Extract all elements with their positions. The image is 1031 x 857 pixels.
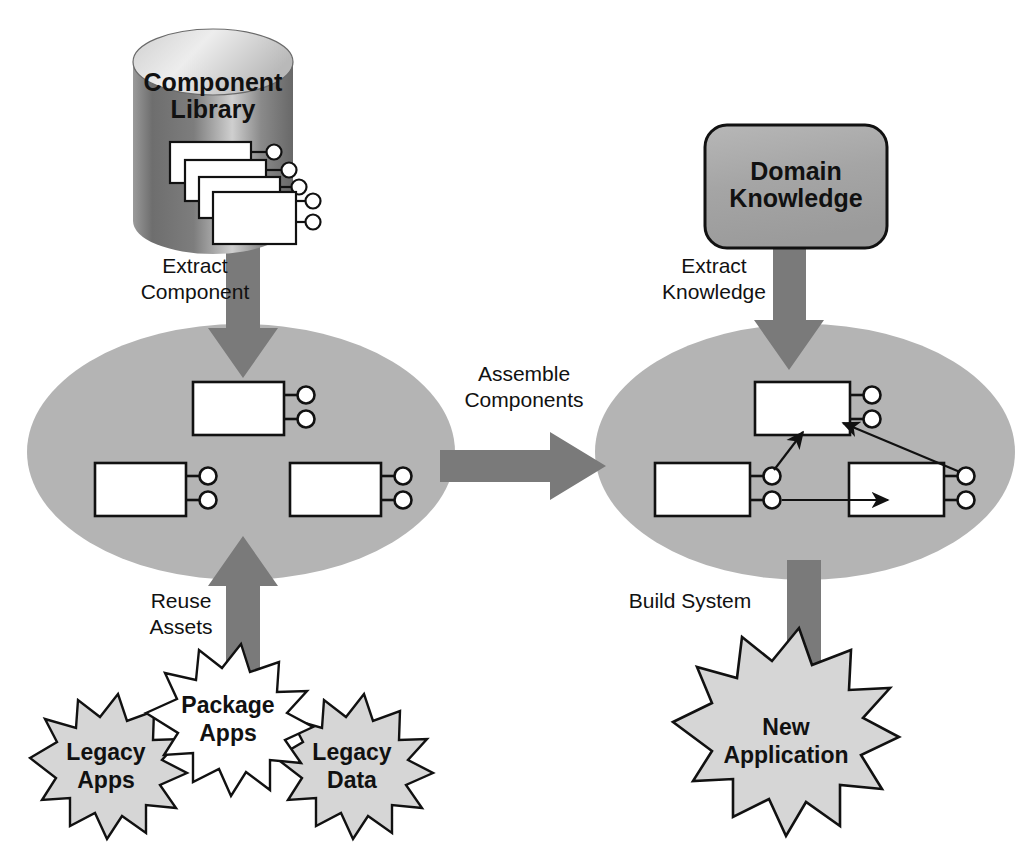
assembled-system-shape [595, 324, 1015, 580]
library-component-4 [213, 192, 321, 244]
assemble-components-arrow-icon [440, 432, 606, 500]
domain-knowledge-label-line1: Domain [750, 157, 842, 185]
domain-knowledge-node[interactable]: Domain Knowledge [705, 125, 887, 248]
diagram-canvas: Assemble Components Extract Component Ex… [0, 0, 1031, 857]
legacy-apps-label-line2: Apps [77, 767, 135, 793]
legacy-apps-label-line1: Legacy [66, 739, 145, 765]
reuse-assets-label-line2: Assets [149, 615, 212, 638]
domain-knowledge-label-line2: Knowledge [729, 184, 862, 212]
assemble-components-label-line2: Components [464, 388, 583, 411]
new-application-node[interactable]: New Application [673, 628, 899, 836]
build-system-label-line1: Build System [629, 589, 752, 612]
component-library-label-line1: Component [144, 68, 284, 96]
legacy-data-label-line1: Legacy [312, 739, 391, 765]
extract-component-label-line2: Component [141, 280, 250, 303]
new-application-label-line2: Application [723, 742, 848, 768]
component-library-label-line2: Library [171, 95, 256, 123]
process-flow-diagram: Assemble Components Extract Component Ex… [0, 0, 1031, 857]
package-apps-label-line2: Apps [199, 720, 257, 746]
assemble-components-label-line1: Assemble [478, 362, 570, 385]
legacy-data-node[interactable]: Legacy Data [276, 694, 433, 839]
extract-component-label-line1: Extract [162, 254, 228, 277]
flow-assemble-components[interactable]: Assemble Components [440, 362, 606, 500]
component-library-node[interactable]: Component Library [133, 29, 321, 254]
legacy-data-label-line2: Data [327, 767, 377, 793]
reuse-assets-label-line1: Reuse [151, 589, 212, 612]
new-application-label-line1: New [762, 714, 809, 740]
extract-knowledge-label-line1: Extract [681, 254, 747, 277]
assembled-system-ellipse[interactable] [595, 324, 1015, 580]
extract-knowledge-label-line2: Knowledge [662, 280, 766, 303]
